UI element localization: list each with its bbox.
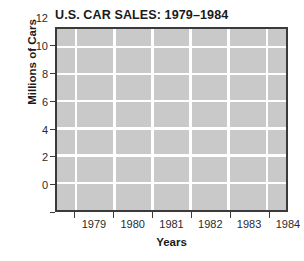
- x-axis-tick-labels: 1979 1980 1981 1982 1983 1984: [55, 218, 288, 234]
- x-tick-label: 1979: [82, 218, 106, 230]
- x-tick-label: 1981: [159, 218, 183, 230]
- x-tick-label: 1982: [198, 218, 222, 230]
- x-tick-label: 1980: [120, 218, 144, 230]
- chart-figure: U.S. CAR SALES: 1979–1984 M: [0, 0, 304, 261]
- x-tick-label: 1984: [276, 218, 300, 230]
- x-axis-title: Years: [55, 236, 288, 248]
- x-tick-label: 1983: [237, 218, 261, 230]
